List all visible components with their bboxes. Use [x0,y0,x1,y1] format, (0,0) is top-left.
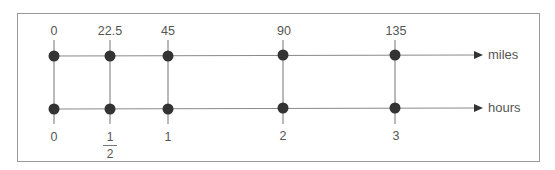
point-miles-4 [390,50,401,61]
point-miles-2 [163,51,174,62]
point-miles-3 [278,50,289,61]
point-hours-2 [163,104,174,115]
point-hours-1 [105,104,116,115]
miles-tick-label: 0 [51,25,58,38]
fraction-denominator: 2 [103,148,117,160]
miles-axis-label: miles [488,48,518,61]
hours-tick-fraction: 1 2 [103,131,117,160]
miles-tick-label: 90 [277,25,291,38]
point-hours-0 [49,104,60,115]
hours-arrow-icon [474,104,483,112]
hours-axis-label: hours [488,101,521,114]
hours-tick-label: 1 [165,131,172,144]
miles-tick-label: 45 [161,25,175,38]
point-miles-1 [105,51,116,62]
fraction-bar [103,145,117,146]
point-hours-3 [278,103,289,114]
fraction-numerator: 1 [103,131,117,143]
miles-arrow-icon [474,51,483,59]
point-hours-4 [390,103,401,114]
point-miles-0 [49,51,60,62]
arrowheads [474,51,483,112]
miles-tick-label: 22.5 [98,25,122,38]
hours-tick-label: 2 [280,130,287,143]
hours-tick-label: 0 [51,131,58,144]
miles-tick-label: 135 [386,25,407,38]
hours-tick-label: 3 [393,130,400,143]
